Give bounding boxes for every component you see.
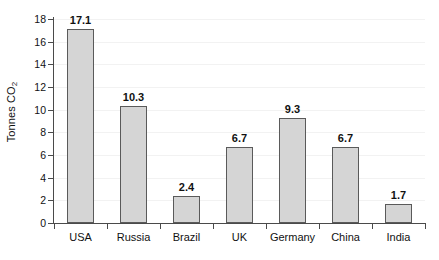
bar — [120, 106, 147, 223]
y-axis-tick-label: 14 — [0, 59, 46, 69]
gridline — [54, 42, 425, 43]
y-axis-tick-label: 16 — [0, 37, 46, 47]
y-axis-tick — [48, 223, 53, 224]
bar-chart: Tonnes CO2 024681012141618 17.1USA10.3Ru… — [0, 0, 439, 260]
bar-value-label: 6.7 — [206, 132, 273, 144]
x-axis-line — [53, 223, 426, 224]
x-axis-tick — [319, 224, 320, 229]
y-axis-tick-label: 2 — [0, 195, 46, 205]
x-axis-tick — [213, 224, 214, 229]
bar-value-label: 9.3 — [259, 103, 326, 115]
bar-value-label: 6.7 — [312, 132, 379, 144]
bar — [279, 118, 306, 223]
y-axis-tick-label: 0 — [0, 218, 46, 228]
bar-value-label: 10.3 — [100, 91, 167, 103]
y-axis-tick-label: 4 — [0, 173, 46, 183]
y-axis-tick-label: 10 — [0, 105, 46, 115]
bar — [67, 29, 94, 223]
bar — [332, 147, 359, 223]
x-axis-tick — [372, 224, 373, 229]
gridline — [54, 64, 425, 65]
y-axis-tick — [48, 110, 53, 111]
y-axis-tick — [48, 200, 53, 201]
x-axis-tick — [266, 224, 267, 229]
bar-value-label: 2.4 — [153, 181, 220, 193]
y-axis-tick — [48, 178, 53, 179]
x-axis-tick — [107, 224, 108, 229]
gridline — [54, 87, 425, 88]
x-axis-tick — [54, 224, 55, 229]
y-axis-tick — [48, 42, 53, 43]
bar-value-label: 17.1 — [47, 14, 114, 26]
y-axis-tick — [48, 132, 53, 133]
x-axis-tick — [160, 224, 161, 229]
y-axis-tick-label: 6 — [0, 150, 46, 160]
x-axis-tick — [425, 224, 426, 229]
gridline — [54, 110, 425, 111]
y-axis-tick — [48, 155, 53, 156]
bar — [173, 196, 200, 223]
bar — [385, 204, 412, 223]
y-axis-tick — [48, 64, 53, 65]
y-axis-tick-label: 8 — [0, 127, 46, 137]
y-axis-tick-label: 12 — [0, 82, 46, 92]
y-axis-tick — [48, 87, 53, 88]
y-axis-tick-label: 18 — [0, 14, 46, 24]
bar-value-label: 1.7 — [365, 189, 432, 201]
bar — [226, 147, 253, 223]
x-axis-category-label: India — [363, 231, 434, 243]
